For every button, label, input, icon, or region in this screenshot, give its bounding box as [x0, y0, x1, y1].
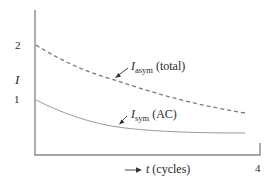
y-tick-2: 2 — [15, 40, 21, 51]
axes — [34, 10, 260, 156]
sym-ac-label: Isym (AC) — [131, 108, 177, 120]
chart-canvas — [0, 0, 274, 184]
asym-label-sub: asym — [135, 65, 153, 75]
x-axis-label: t (cycles) — [146, 163, 190, 175]
x-axis-unit: (cycles) — [152, 162, 190, 176]
x-axis-variable: t — [146, 162, 149, 176]
asym-annotation-arrow — [115, 68, 128, 78]
sym-label-sub: sym — [135, 113, 149, 123]
sym-label-rest: (AC) — [152, 107, 177, 121]
time-direction-arrow-icon — [125, 167, 142, 172]
x-tick-4: 4 — [255, 163, 261, 174]
sym-annotation-arrow — [119, 116, 127, 125]
asym-label-rest: (total) — [156, 59, 185, 73]
y-axis-label: I — [15, 73, 19, 86]
asym-total-label: Iasym (total) — [131, 60, 185, 72]
asym-total-curve — [36, 45, 245, 113]
y-tick-1: 1 — [14, 94, 20, 105]
